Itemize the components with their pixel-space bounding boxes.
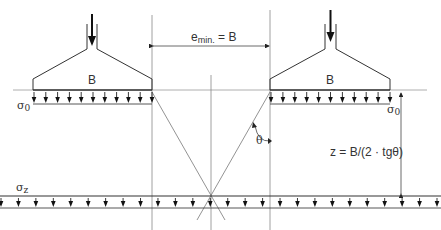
right-footing — [269, 10, 393, 104]
sigma-z-load-strip — [0, 196, 441, 208]
sigma0-left-label: σ0 — [17, 99, 30, 113]
footing-width-right-label: B — [326, 73, 334, 87]
depth-formula-label: z = B/(2 · tgθ) — [330, 145, 403, 159]
left-footing — [32, 14, 155, 104]
spread-line-left — [152, 92, 225, 220]
sigmaz-label: σz — [16, 181, 28, 195]
sigma0-right-label: σ0 — [387, 103, 400, 117]
spread-line-right — [197, 92, 270, 220]
emin-label: emin. = B — [191, 30, 236, 45]
theta-label: θ — [256, 134, 263, 147]
footing-width-left-label: B — [88, 73, 96, 87]
